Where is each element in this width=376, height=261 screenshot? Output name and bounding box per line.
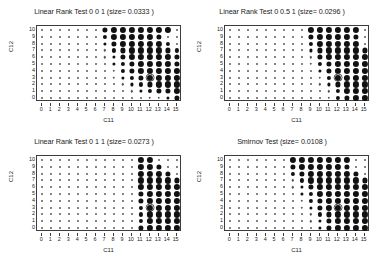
scatter-marker xyxy=(256,63,258,65)
x-tick-label: 1 xyxy=(237,106,240,112)
scatter-marker xyxy=(103,42,106,45)
scatter-marker xyxy=(274,186,276,188)
scatter-marker xyxy=(122,227,124,229)
scatter-marker xyxy=(317,205,322,210)
scatter-marker xyxy=(68,29,70,31)
scatter-marker xyxy=(353,88,359,94)
scatter-marker xyxy=(86,77,88,79)
scatter-marker xyxy=(301,213,303,215)
scatter-plot-area xyxy=(37,156,180,230)
x-tick-label: 2 xyxy=(246,236,249,242)
scatter-marker xyxy=(238,56,240,58)
scatter-marker xyxy=(353,27,359,33)
scatter-marker xyxy=(353,171,358,176)
x-tick-label: 2 xyxy=(58,106,61,112)
x-tick-label: 10 xyxy=(128,236,134,242)
y-axis-ticks: 012345678910 xyxy=(22,25,35,101)
scatter-marker xyxy=(166,42,170,46)
scatter-marker xyxy=(41,63,43,65)
plot-panel: Linear Rank Test 0 1 1 (size= 0.0273 )01… xyxy=(0,130,188,260)
scatter-marker xyxy=(364,36,366,38)
scatter-marker xyxy=(283,220,285,222)
scatter-marker xyxy=(283,77,285,79)
scatter-marker xyxy=(41,159,43,161)
scatter-marker xyxy=(317,157,323,163)
scatter-marker xyxy=(104,227,106,229)
scatter-marker xyxy=(247,29,249,31)
x-tick-label: 11 xyxy=(325,106,331,112)
x-tick-label: 0 xyxy=(40,106,43,112)
scatter-marker xyxy=(300,186,303,189)
scatter-marker xyxy=(292,56,294,58)
scatter-marker xyxy=(77,90,79,92)
x-tick-mark xyxy=(113,233,114,236)
scatter-marker xyxy=(77,63,79,65)
scatter-marker xyxy=(138,177,144,183)
scatter-marker xyxy=(362,95,368,101)
scatter-marker xyxy=(292,77,294,79)
scatter-marker xyxy=(121,69,125,73)
scatter-marker xyxy=(95,77,97,79)
scatter-marker xyxy=(283,36,285,38)
scatter-marker xyxy=(318,69,321,72)
scatter-marker xyxy=(95,186,97,188)
scatter-marker xyxy=(68,97,70,99)
scatter-marker xyxy=(301,56,303,58)
scatter-marker xyxy=(174,204,180,210)
scatter-marker xyxy=(256,207,258,209)
scatter-marker xyxy=(104,97,106,99)
scatter-marker xyxy=(335,34,341,40)
scatter-marker xyxy=(301,227,303,229)
scatter-marker xyxy=(120,41,126,47)
scatter-marker xyxy=(86,166,88,168)
scatter-marker xyxy=(335,218,341,224)
scatter-marker xyxy=(131,207,133,209)
scatter-marker xyxy=(229,36,231,38)
scatter-marker xyxy=(229,83,231,85)
x-tick-label: 8 xyxy=(299,106,302,112)
scatter-marker xyxy=(238,179,240,181)
scatter-marker xyxy=(274,63,276,65)
scatter-marker xyxy=(122,186,124,188)
scatter-marker xyxy=(147,41,153,47)
scatter-marker xyxy=(158,159,160,161)
scatter-marker xyxy=(283,97,285,99)
scatter-marker xyxy=(77,213,79,215)
scatter-marker xyxy=(247,159,249,161)
y-tick-label: 1 xyxy=(32,87,35,93)
scatter-marker xyxy=(113,227,115,229)
scatter-marker xyxy=(121,76,124,79)
x-tick-label: 3 xyxy=(255,236,258,242)
scatter-marker xyxy=(86,179,88,181)
scatter-marker xyxy=(129,34,135,40)
scatter-marker xyxy=(274,83,276,85)
scatter-marker xyxy=(147,47,153,53)
scatter-marker xyxy=(283,70,285,72)
scatter-marker xyxy=(167,36,169,38)
x-tick-mark xyxy=(364,233,365,236)
scatter-marker xyxy=(362,204,368,210)
scatter-marker xyxy=(95,29,97,31)
scatter-marker xyxy=(50,213,52,215)
scatter-plot-area xyxy=(37,26,180,100)
scatter-marker xyxy=(59,186,61,188)
x-tick-label: 4 xyxy=(264,236,267,242)
scatter-marker xyxy=(41,97,43,99)
scatter-marker xyxy=(95,83,97,85)
scatter-marker xyxy=(50,207,52,209)
scatter-marker xyxy=(362,81,368,87)
scatter-marker xyxy=(138,225,143,230)
scatter-marker xyxy=(309,42,313,46)
scatter-marker xyxy=(326,177,332,183)
scatter-marker xyxy=(95,179,97,181)
scatter-marker xyxy=(86,213,88,215)
x-tick-mark xyxy=(229,103,230,106)
scatter-marker xyxy=(86,159,88,161)
scatter-marker xyxy=(77,77,79,79)
scatter-marker xyxy=(326,184,332,190)
scatter-marker xyxy=(68,227,70,229)
scatter-marker xyxy=(290,157,296,163)
scatter-marker xyxy=(174,88,180,94)
scatter-marker xyxy=(274,220,276,222)
highlighted-marker-ring xyxy=(145,73,154,82)
